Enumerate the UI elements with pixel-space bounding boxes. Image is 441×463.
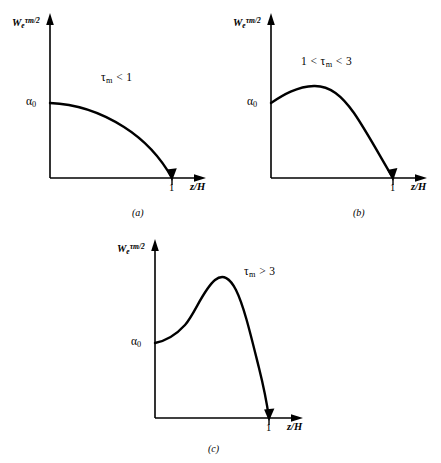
regime-annotation: τm < 1	[101, 72, 132, 85]
panel-c: Weτm/2 α0 1 z/H τm > 3 (c)	[103, 228, 338, 463]
x-tick-label: 1	[169, 183, 174, 194]
data-curve	[271, 86, 393, 178]
panel-b-plot	[221, 0, 441, 225]
x-axis-label: z/H	[287, 422, 302, 433]
panel-caption: (a)	[132, 208, 144, 218]
panel-a: Weτm/2 α0 1 z/H τm < 1 (a)	[0, 0, 220, 225]
x-axis-label: z/H	[411, 182, 426, 193]
data-curve	[50, 103, 172, 178]
y-axis-arrowhead	[267, 13, 275, 25]
x-tick-label: 1	[266, 423, 271, 434]
regime-annotation: τm > 3	[244, 266, 275, 279]
x-axis-label: z/H	[190, 182, 205, 193]
y-axis-arrowhead	[46, 13, 54, 25]
panel-b: Weτm/2 α0 1 z/H 1 < τm < 3 (b)	[221, 0, 441, 225]
panel-caption: (c)	[208, 444, 219, 454]
y-origin-label: α0	[131, 336, 141, 349]
panel-caption: (b)	[353, 208, 365, 218]
x-tick-label: 1	[390, 183, 395, 194]
y-axis-label: Weτm/2	[12, 17, 40, 29]
regime-annotation: 1 < τm < 3	[301, 56, 352, 69]
data-curve	[155, 277, 269, 418]
y-origin-label: α0	[247, 96, 257, 109]
y-axis-label: Weτm/2	[117, 243, 145, 255]
figure-container: Weτm/2 α0 1 z/H τm < 1 (a) Weτm/2 α0 1 z…	[0, 0, 441, 463]
curve-end-arrowhead	[264, 408, 274, 421]
y-axis-label: Weτm/2	[233, 17, 261, 29]
panel-a-plot	[0, 0, 220, 225]
curve-end-arrowhead	[387, 168, 397, 181]
curve-end-arrowhead	[167, 168, 177, 181]
y-origin-label: α0	[26, 96, 36, 109]
y-axis-arrowhead	[151, 239, 159, 251]
